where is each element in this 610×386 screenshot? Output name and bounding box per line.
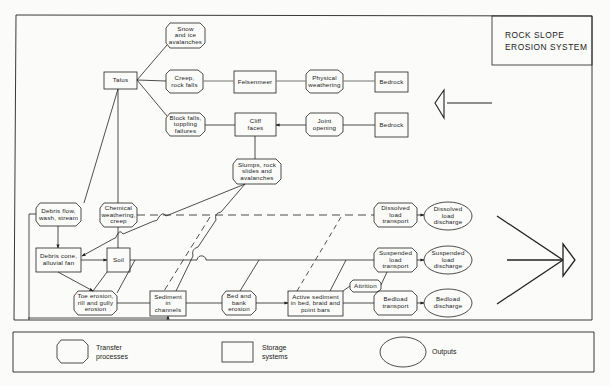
node-sediment-channels: Sediment in channels <box>150 291 186 316</box>
node-debris-cone: Debris cone, alluvial fan <box>36 248 81 272</box>
legend-storage-label: Storage systems <box>262 344 288 361</box>
node-soil: Soil <box>107 248 130 272</box>
node-bedrock-mid: Bedrock <box>375 113 408 137</box>
node-slumps: Slumps, rock slides and avalanches <box>233 159 281 184</box>
node-physical-weathering: Physical weathering <box>306 70 343 93</box>
node-suspended-discharge: Suspended load discharge <box>424 246 472 274</box>
node-creep-rock-falls: Creep, rock falls <box>166 70 203 93</box>
node-cliff-faces: Cliff faces <box>235 113 276 136</box>
node-joint-opening: Joint opening <box>306 113 343 136</box>
node-bed-bank-erosion: Bed and bank erosion <box>222 291 256 315</box>
node-bedrock-top: Bedrock <box>375 72 408 92</box>
node-chemical-weathering: Chemical weathering, creep <box>100 203 137 227</box>
diagram-title: ROCK SLOPE EROSION SYSTEM <box>492 16 593 65</box>
node-block-falls: Block falls, toppling failures <box>166 113 205 136</box>
node-toe-erosion: Toe erosion, rill and gully erosion <box>74 291 117 315</box>
node-talus: Talus <box>104 72 137 89</box>
legend-outputs-label: Outputs <box>432 348 457 357</box>
node-debris-flow: Debris flow, wash, stream <box>36 203 81 226</box>
node-active-sediment: Active sediment in bed, braid and point … <box>288 291 343 316</box>
node-bedload-transport: Bedload transport <box>374 291 417 315</box>
node-dissolved-transport: Dissolved load transport <box>374 203 417 227</box>
node-felsenmeer: Felsenmeer <box>234 71 276 93</box>
node-snow-ice-avalanches: Snow and ice avalanches <box>166 23 205 48</box>
node-dissolved-discharge: Dissolved load discharge <box>424 202 472 230</box>
node-suspended-transport: Suspended load transport <box>374 248 417 272</box>
node-bedload-discharge: Bedload discharge <box>424 289 472 317</box>
legend-transfer-label: Transfer processes <box>96 344 128 361</box>
